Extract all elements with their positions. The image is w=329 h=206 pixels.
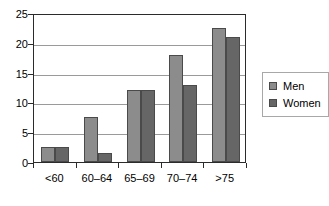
- legend-item-men: Men: [269, 78, 321, 93]
- x-axis-tick-labels: <6060–6465–6970–74>75: [33, 172, 246, 192]
- x-axis-tick-mark: [76, 163, 77, 168]
- legend-item-women: Women: [269, 95, 321, 110]
- bar-women-3: [183, 85, 197, 162]
- x-axis-tick-mark: [118, 163, 119, 168]
- legend-swatch-icon: [269, 99, 277, 107]
- bar-women-2: [141, 90, 155, 162]
- bars-layer: [34, 15, 245, 162]
- bar-men-2: [127, 90, 141, 162]
- y-axis-tick-label: 10: [4, 98, 28, 109]
- y-axis-tick-labels: 0510152025: [0, 0, 28, 206]
- y-axis-tick-label: 5: [4, 128, 28, 139]
- y-axis-tick-label: 15: [4, 68, 28, 79]
- legend-label: Men: [283, 80, 304, 92]
- x-axis-tick-label: 60–64: [76, 172, 119, 185]
- x-axis-tick-mark: [33, 163, 34, 168]
- bar-men-1: [84, 117, 98, 162]
- bar-women-4: [226, 37, 240, 162]
- bar-men-0: [41, 147, 55, 162]
- chart-legend: MenWomen: [262, 72, 329, 117]
- x-axis-tick-label: <60: [33, 172, 76, 185]
- x-axis-tick-label: 70–74: [161, 172, 204, 185]
- bar-men-3: [169, 55, 183, 162]
- y-axis-tick-label: 0: [4, 158, 28, 169]
- bar-women-0: [55, 147, 69, 162]
- x-axis-tick-mark: [203, 163, 204, 168]
- bar-men-4: [212, 28, 226, 162]
- x-axis-tick-label: 65–69: [118, 172, 161, 185]
- y-axis-tick-label: 25: [4, 9, 28, 20]
- x-axis-tick-mark: [246, 163, 247, 168]
- legend-swatch-icon: [269, 82, 277, 90]
- x-axis-tick-mark: [161, 163, 162, 168]
- plot-area: [33, 14, 246, 163]
- legend-label: Women: [283, 97, 321, 109]
- x-axis-tick-label: >75: [203, 172, 246, 185]
- bar-women-1: [98, 153, 112, 162]
- y-axis-tick-label: 20: [4, 38, 28, 49]
